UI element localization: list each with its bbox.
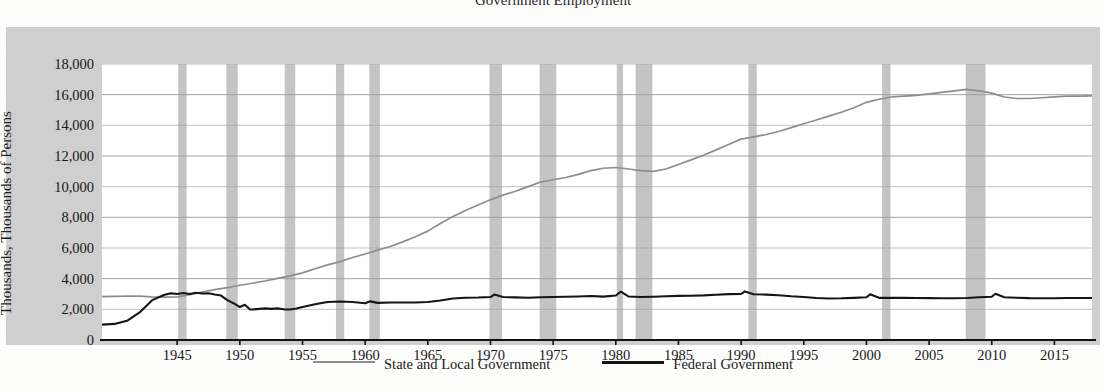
recession-band xyxy=(285,64,296,340)
series-state-and-local-government xyxy=(102,89,1092,297)
legend-item: State and Local Government xyxy=(313,355,550,373)
series-state-and-local-government-line xyxy=(102,89,1092,297)
recession-band xyxy=(369,64,380,340)
y-axis-tick-label: 8,000 xyxy=(61,209,94,226)
y-axis-label: Thousands, Thousands of Persons xyxy=(0,63,20,363)
legend-item: Federal Government xyxy=(602,355,793,373)
recession-band xyxy=(540,64,557,340)
recession-bands xyxy=(178,64,985,340)
recession-band xyxy=(178,64,186,340)
legend: State and Local GovernmentFederal Govern… xyxy=(0,354,1106,373)
y-axis-tick-label: 10,000 xyxy=(54,178,94,195)
y-axis-tick-label: 12,000 xyxy=(54,148,94,165)
chart-panel: Thousands, Thousands of Persons 02,0004,… xyxy=(6,27,1100,345)
legend-line-swatch-icon xyxy=(602,361,664,364)
plot-area xyxy=(102,64,1092,340)
recession-band xyxy=(748,64,756,340)
y-axis-tick-label: 14,000 xyxy=(54,117,94,134)
recession-band xyxy=(636,64,653,340)
y-axis-tick-label: 2,000 xyxy=(61,301,94,318)
legend-item-label: State and Local Government xyxy=(384,356,550,372)
y-axis-tick-label: 0 xyxy=(87,332,94,349)
legend-item-label: Federal Government xyxy=(673,356,793,372)
recession-band xyxy=(336,64,344,340)
y-axis-tick-label: 4,000 xyxy=(61,270,94,287)
clipped-title-text: Government Employment xyxy=(475,0,631,8)
series-federal-government-line xyxy=(102,291,1092,324)
recession-band xyxy=(489,64,502,340)
clipped-title: Government Employment xyxy=(0,0,1106,9)
y-axis-tick-label: 18,000 xyxy=(54,56,94,73)
y-axis-tick-label: 6,000 xyxy=(61,240,94,257)
recession-band xyxy=(226,64,237,340)
series-federal-government xyxy=(102,291,1092,324)
chart-svg xyxy=(102,64,1092,340)
gridlines xyxy=(102,64,1092,309)
legend-line-swatch-icon xyxy=(313,361,375,363)
y-axis-tick-label: 16,000 xyxy=(54,86,94,103)
recession-band xyxy=(617,64,623,340)
